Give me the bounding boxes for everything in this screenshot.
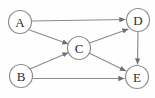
node-label-d: D xyxy=(133,13,142,28)
graph-node-a[interactable]: A xyxy=(9,11,32,34)
graph-edge-c-to-e xyxy=(89,53,126,71)
graph-edge-c-to-d xyxy=(90,29,129,43)
graph-canvas: ABCDE xyxy=(0,0,155,98)
graph-edge-b-to-c xyxy=(30,53,69,70)
graph-edge-a-to-d xyxy=(32,20,126,22)
graph-edge-d-to-e xyxy=(138,32,139,65)
directed-graph-figure: ABCDE xyxy=(0,0,155,98)
node-label-b: B xyxy=(17,69,26,84)
node-label-c: C xyxy=(75,41,84,56)
graph-edge-a-to-c xyxy=(30,30,69,44)
graph-node-c[interactable]: C xyxy=(68,37,91,60)
node-label-a: A xyxy=(15,15,25,30)
graph-node-b[interactable]: B xyxy=(10,65,33,88)
graph-node-e[interactable]: E xyxy=(126,66,149,89)
graph-node-d[interactable]: D xyxy=(127,9,150,32)
node-label-e: E xyxy=(133,70,141,85)
